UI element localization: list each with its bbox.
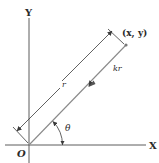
- radius-rod: [29, 45, 126, 145]
- point-marker: [124, 43, 127, 46]
- dimension-line-r: [62, 31, 112, 81]
- point-label: (x, y): [122, 28, 147, 39]
- extension-line-start: [13, 127, 28, 143]
- length-label-r: r: [62, 80, 67, 89]
- force-label-kr: kr: [113, 64, 123, 73]
- x-axis-label: X: [149, 140, 157, 151]
- angle-label-theta: θ: [65, 123, 71, 133]
- polar-coordinates-diagram: Y X O (x, y) r kr θ: [0, 0, 159, 163]
- dimension-line-r-lower: [17, 88, 60, 131]
- force-arrowhead-icon: [89, 81, 96, 88]
- y-axis-label: Y: [24, 7, 33, 18]
- origin-label: O: [17, 148, 26, 159]
- angle-arc-base-arrow-icon: [61, 141, 65, 145]
